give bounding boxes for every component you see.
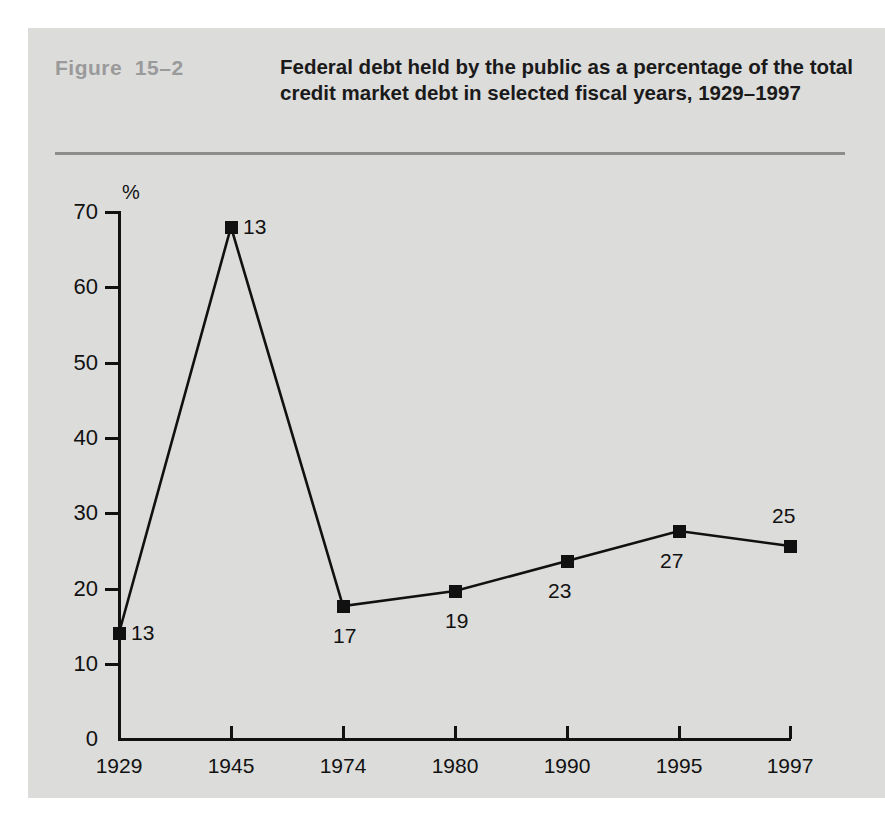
- data-label-1980: 19: [445, 610, 468, 631]
- y-tick-70: [105, 211, 119, 214]
- x-tick-1945: [230, 726, 233, 739]
- x-tick-label-1929: 1929: [74, 755, 164, 776]
- y-tick-label-60: 60: [42, 276, 98, 298]
- data-label-1995: 27: [660, 550, 683, 571]
- y-tick-20: [105, 588, 119, 591]
- x-tick-1929: [118, 726, 121, 739]
- y-tick-label-50: 50: [42, 352, 98, 374]
- y-tick-label-40: 40: [42, 427, 98, 449]
- x-tick-1980: [454, 726, 457, 739]
- x-tick-label-1980: 1980: [410, 755, 500, 776]
- data-point-1945[interactable]: [225, 221, 238, 234]
- data-point-1980[interactable]: [449, 585, 462, 598]
- x-tick-label-1997: 1997: [745, 755, 835, 776]
- y-tick-10: [105, 663, 119, 666]
- x-tick-1990: [566, 726, 569, 739]
- y-tick-label-70: 70: [42, 201, 98, 223]
- data-point-1929[interactable]: [113, 627, 126, 640]
- x-tick-1995: [678, 726, 681, 739]
- x-tick-label-1945: 1945: [186, 755, 276, 776]
- data-point-1974[interactable]: [337, 600, 350, 613]
- x-tick-1974: [342, 726, 345, 739]
- data-point-1995[interactable]: [673, 525, 686, 538]
- y-tick-label-20: 20: [42, 578, 98, 600]
- x-tick-1997: [789, 726, 792, 739]
- x-tick-label-1995: 1995: [634, 755, 724, 776]
- y-tick-label-30: 30: [42, 502, 98, 524]
- series-line: [0, 0, 885, 826]
- line-chart: % 70 60 50 40 30 20 10 0 1929 1945 1974 …: [0, 0, 885, 826]
- y-tick-label-0: 0: [42, 728, 98, 750]
- y-tick-40: [105, 437, 119, 440]
- data-label-1997: 25: [772, 505, 795, 526]
- y-axis-line: [118, 211, 121, 741]
- y-tick-50: [105, 362, 119, 365]
- data-label-1929: 13: [131, 622, 154, 643]
- y-tick-label-10: 10: [42, 653, 98, 675]
- y-tick-60: [105, 286, 119, 289]
- data-label-1945: 13: [243, 216, 266, 237]
- figure-container: Figure 15–2 Federal debt held by the pub…: [0, 0, 885, 826]
- data-label-1990: 23: [548, 580, 571, 601]
- data-label-1974: 17: [333, 625, 356, 646]
- data-point-1997[interactable]: [784, 540, 797, 553]
- data-point-1990[interactable]: [561, 555, 574, 568]
- x-tick-label-1974: 1974: [298, 755, 388, 776]
- y-tick-30: [105, 512, 119, 515]
- x-tick-label-1990: 1990: [522, 755, 612, 776]
- y-axis-unit-label: %: [122, 182, 140, 202]
